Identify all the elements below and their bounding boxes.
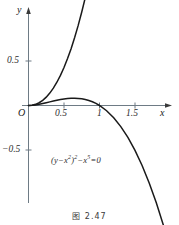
curve-plot xyxy=(0,0,179,225)
figure-caption: 图 2.47 xyxy=(0,210,179,221)
y-axis-label: y xyxy=(17,5,21,15)
equation-lead: (y−x xyxy=(51,155,68,165)
ytick-label--0.5: −0.5 xyxy=(2,145,20,155)
equation-annotation: (y−x2)2−x5=0 xyxy=(51,154,101,164)
x-axis-label: x xyxy=(160,108,164,118)
x-axis-arrowhead xyxy=(165,103,172,108)
origin-label: O xyxy=(18,108,25,118)
axes-group xyxy=(22,7,172,203)
y-axis-arrowhead xyxy=(26,7,31,14)
equation-tail: =0 xyxy=(90,155,100,165)
xtick-label-1: 1 xyxy=(97,109,102,119)
xtick-label-0.5: 0.5 xyxy=(55,109,67,119)
ytick-label-0.5: 0.5 xyxy=(7,56,19,66)
equation-minus-term: −x xyxy=(77,155,87,165)
xtick-label-1.5: 1.5 xyxy=(126,109,138,119)
curve-upper-branch xyxy=(29,0,86,106)
